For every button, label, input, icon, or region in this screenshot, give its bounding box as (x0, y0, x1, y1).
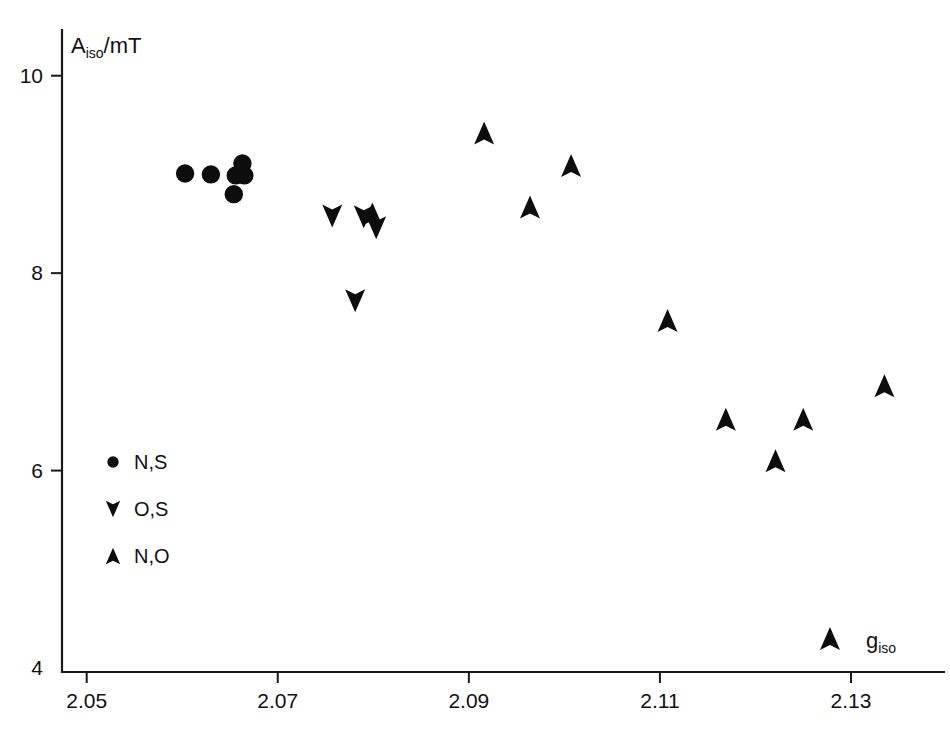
legend-item-no: N,O (106, 545, 170, 567)
legend-marker-triangle-up-icon (106, 548, 120, 565)
data-point (176, 164, 194, 182)
x-tick-label-2.07: 2.07 (257, 689, 298, 712)
axes (62, 30, 944, 672)
data-point (345, 289, 365, 312)
x-tick-label-2.11: 2.11 (640, 689, 679, 712)
axis-tick-labels: 468102.052.072.092.112.13 (20, 64, 872, 712)
data-point (202, 165, 220, 183)
data-point (793, 408, 813, 431)
scatter-plot-figure: 468102.052.072.092.112.13 N,SO,SN,O Aiso… (0, 0, 950, 738)
legend-marker-triangle-down-icon (106, 501, 120, 518)
data-point (658, 309, 678, 332)
y-tick-label-10: 10 (20, 64, 43, 87)
series-ns (176, 154, 254, 203)
x-axis-title: giso (866, 628, 896, 656)
legend-label: O,S (134, 498, 168, 520)
y-tick-label-4: 4 (31, 656, 43, 679)
series-no (362, 121, 894, 649)
y-axis-title: Aiso/mT (71, 33, 141, 61)
x-tick-label-2.13: 2.13 (831, 689, 872, 712)
legend-item-ns: N,S (107, 451, 167, 473)
data-point (474, 121, 494, 144)
data-point (716, 408, 736, 431)
data-point (233, 154, 251, 172)
data-point (874, 374, 894, 397)
x-tick-label-2.05: 2.05 (66, 689, 107, 712)
data-point (561, 154, 581, 177)
y-tick-label-6: 6 (31, 459, 43, 482)
data-point (766, 449, 786, 472)
data-point (225, 185, 243, 203)
data-point (322, 204, 342, 227)
y-tick-label-8: 8 (31, 261, 43, 284)
legend: N,SO,SN,O (106, 451, 170, 567)
legend-label: N,O (134, 545, 170, 567)
plot-canvas: 468102.052.072.092.112.13 N,SO,SN,O Aiso… (0, 0, 950, 738)
legend-item-os: O,S (106, 498, 169, 520)
legend-label: N,S (134, 451, 167, 473)
data-point (520, 195, 540, 218)
x-tick-label-2.09: 2.09 (448, 689, 489, 712)
legend-marker-circle-icon (107, 456, 118, 467)
data-point (820, 627, 840, 650)
data-markers (176, 121, 895, 649)
axis-ticks (51, 76, 851, 683)
